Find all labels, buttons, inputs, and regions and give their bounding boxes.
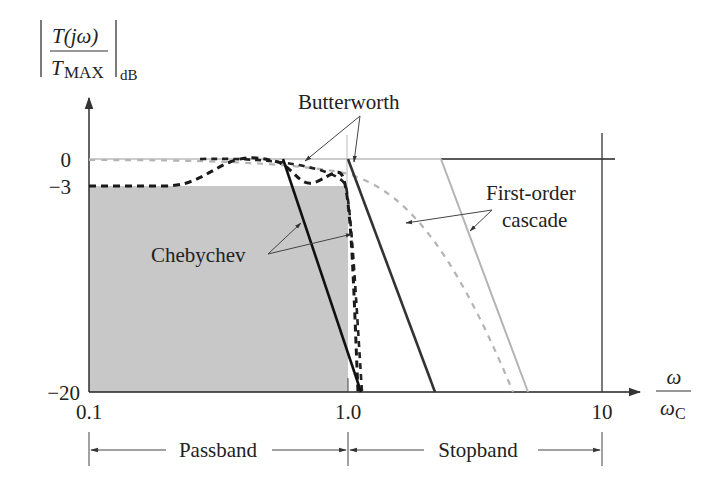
x-label-denominator-sub: C	[675, 405, 686, 422]
chebychev-label: Chebychev	[151, 243, 246, 267]
first-order-label-line1: First-order	[486, 181, 576, 205]
x-axis-label: ω ω C	[656, 365, 691, 422]
passband-shaded-region	[89, 186, 348, 392]
stopband-label: Stopband	[438, 438, 518, 462]
first-order-pointer-curve	[406, 210, 492, 223]
first-order-label-line2: cascade	[502, 208, 567, 232]
y-label-denominator: T	[51, 56, 64, 80]
butterworth-pointer-left	[305, 116, 360, 161]
x-tick-0.1: 0.1	[76, 400, 102, 424]
filter-response-diagram: T(jω) T MAX dB Butterworth Chebychev Fir…	[0, 0, 724, 490]
x-label-numerator: ω	[667, 365, 682, 389]
y-tick-minus3: −3	[49, 175, 71, 199]
butterworth-label: Butterworth	[298, 90, 400, 114]
butterworth-pointer-right	[354, 116, 360, 162]
passband-label: Passband	[179, 438, 258, 462]
y-tick-0: 0	[61, 148, 72, 172]
band-brackets: Passband Stopband	[89, 432, 602, 466]
y-label-numerator: T(jω)	[52, 24, 98, 48]
x-tick-1.0: 1.0	[335, 400, 361, 424]
y-label-denominator-sub: MAX	[64, 63, 104, 82]
y-axis-label: T(jω) T MAX dB	[41, 20, 138, 83]
y-label-unit: dB	[120, 67, 138, 83]
x-label-denominator: ω	[660, 396, 675, 420]
x-tick-10: 10	[592, 400, 613, 424]
